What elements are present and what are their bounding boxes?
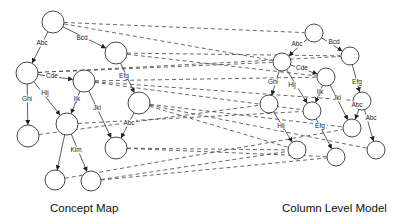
mapping-line	[101, 151, 288, 179]
relationship-arrow	[27, 84, 28, 125]
mapping-line	[64, 22, 305, 32]
concept-node	[81, 171, 101, 191]
relationship-label: Hij	[288, 81, 296, 89]
relationship-label: Ghi	[268, 78, 278, 85]
relationship-label: Hij	[41, 89, 49, 97]
relationship-arrow	[89, 91, 111, 138]
concept-node	[105, 42, 127, 64]
relationship-arrow	[57, 135, 64, 170]
column-level-model-caption: Column Level Model	[282, 202, 387, 214]
relationship-label: Bcd	[328, 38, 340, 45]
relationship-label: Efg	[119, 72, 129, 80]
relationship-label: Abc	[365, 114, 377, 121]
concept-node	[16, 62, 38, 84]
relationship-arrow	[355, 109, 359, 119]
relationship-label: Ijk	[317, 88, 324, 96]
relationship-arrow	[32, 32, 48, 63]
edge-labels: AbcBcdCdeEfgGhiHijIjkJklAbcKlmAbcBcdCdeE…	[20, 34, 378, 154]
mapping-line	[150, 105, 367, 148]
column-node	[288, 141, 306, 159]
column-node	[343, 119, 361, 137]
column-node	[367, 141, 385, 159]
relationship-label: Bcd	[76, 34, 88, 41]
relationship-label: Jkl	[333, 94, 342, 101]
column-node	[327, 148, 345, 166]
concept-node	[73, 70, 95, 92]
relationship-label: Abc	[123, 119, 135, 126]
relationship-label: Ijk	[74, 95, 81, 103]
concept-node	[45, 170, 65, 190]
relationship-arrow	[34, 82, 60, 115]
mapping-line	[38, 62, 273, 72]
column-node	[273, 53, 291, 71]
mapping-line	[101, 158, 327, 180]
relationship-label: Cde	[46, 72, 58, 79]
relationship-label: Abc	[291, 40, 303, 47]
relationship-label: Abc	[36, 39, 48, 46]
concept-map-caption: Concept Map	[50, 202, 118, 214]
column-node	[303, 102, 321, 120]
relationship-label: Jkl	[93, 104, 102, 111]
relationship-label: Hij	[277, 122, 285, 130]
concept-node	[17, 125, 39, 147]
relationship-label: Klm	[70, 146, 81, 153]
concept-node	[128, 92, 150, 114]
relationship-label: Efg	[352, 78, 362, 86]
mapping-lines	[38, 22, 367, 180]
relationship-label: Cde	[296, 64, 308, 71]
concept-node	[56, 113, 78, 135]
relationship-label: Ghi	[22, 95, 32, 102]
concept-node	[105, 137, 127, 159]
relationship-label: Abc	[351, 101, 363, 108]
column-node	[305, 24, 323, 42]
diagram-canvas: AbcBcdCdeEfgGhiHijIjkJklAbcKlmAbcBcdCdeE…	[0, 0, 394, 224]
column-node	[317, 68, 335, 86]
concept-node	[42, 11, 64, 33]
mapping-line	[127, 53, 341, 56]
column-node	[341, 47, 359, 65]
column-node	[260, 95, 278, 113]
relationship-label: Efg	[315, 122, 325, 130]
relationship-arrow	[330, 85, 348, 120]
